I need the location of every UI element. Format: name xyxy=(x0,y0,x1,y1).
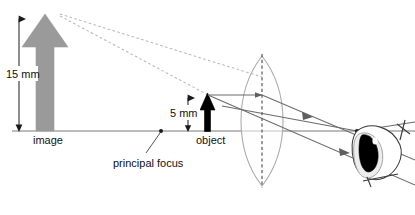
object-arrow-shape xyxy=(200,93,215,132)
image-label: image xyxy=(33,134,63,146)
principal-focus-leader xyxy=(146,133,160,153)
eye xyxy=(352,120,410,187)
lens xyxy=(241,54,283,188)
dimension-5mm: 5 mm xyxy=(168,98,200,132)
object-arrow xyxy=(200,93,215,132)
principal-focus-label: principal focus xyxy=(113,157,184,169)
dimension-5mm-label: 5 mm xyxy=(170,107,198,119)
dimension-15mm-label: 15 mm xyxy=(6,68,40,80)
principal-focus-point: principal focus xyxy=(113,129,184,169)
optics-diagram-canvas: 15 mm 5 mm principal focus image object xyxy=(0,0,415,215)
object-label: object xyxy=(196,134,225,146)
axis-labels: image object xyxy=(33,134,225,146)
eye-highlight xyxy=(372,138,377,145)
optics-diagram: 15 mm 5 mm principal focus image object xyxy=(0,0,415,215)
virtual-ray-upper xyxy=(60,14,262,77)
virtual-ray-lines xyxy=(60,14,262,95)
principal-focus-dot xyxy=(159,129,163,133)
virtual-ray-lower xyxy=(60,16,208,95)
